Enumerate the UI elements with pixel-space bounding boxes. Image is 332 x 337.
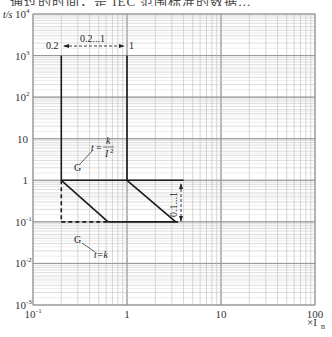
right-dimension-annotation: 0.1...1: [168, 183, 183, 222]
arrow-down-icon: [179, 216, 183, 222]
x-unit-label: ×I: [307, 316, 317, 328]
x-tick-label: 10: [216, 308, 228, 320]
y-axis-label: t/s: [3, 9, 13, 20]
dim-label-0-1-to-1: 0.1...1: [168, 192, 179, 217]
formula-k: k: [106, 135, 111, 146]
formula-t-eq-k: t=k: [94, 249, 109, 260]
y-tick-label: 10: [15, 50, 27, 62]
dim-label-range: 0.2...1: [80, 33, 105, 44]
formula-sup-2: 2: [110, 147, 114, 155]
y-tick-label: 10: [15, 8, 27, 20]
y-tick-label: 1: [23, 174, 29, 186]
y-axis-ticks: 10410310210110-110-210-3: [15, 7, 32, 311]
formula-I: I: [104, 148, 109, 159]
x-tick-label: 1: [124, 308, 130, 320]
arrow-up-icon: [179, 183, 183, 189]
y-tick-label: 10: [15, 91, 27, 103]
y-tick-exponent: 4: [26, 7, 30, 15]
g-label-lower: G: [74, 234, 81, 245]
arrow-right-icon: [119, 44, 125, 48]
y-tick-label: 10: [15, 257, 27, 269]
x-unit-subscript: n: [321, 322, 325, 331]
log-grid: [33, 14, 315, 305]
y-tick-exponent: 2: [26, 90, 30, 98]
arrow-left-icon: [63, 44, 69, 48]
y-tick-exponent: -2: [26, 256, 32, 264]
x-tick-label: 10: [25, 308, 37, 320]
y-tick-label: 10: [15, 216, 27, 228]
formula-t: t: [91, 142, 94, 153]
time-current-chart: 10410310210110-110-210-3 10-1110100 t/s …: [0, 0, 332, 337]
formula-eq: =: [96, 142, 102, 153]
x-tick-exponent: -1: [36, 307, 42, 315]
y-tick-exponent: -1: [26, 215, 32, 223]
y-tick-exponent: 3: [26, 49, 30, 57]
x-axis-ticks: 10-1110100: [25, 307, 324, 320]
y-tick-exponent: -3: [26, 298, 32, 306]
dim-label-1: 1: [129, 40, 134, 51]
y-tick-label: 10: [17, 133, 29, 145]
dim-label-0-2: 0.2: [46, 40, 59, 51]
